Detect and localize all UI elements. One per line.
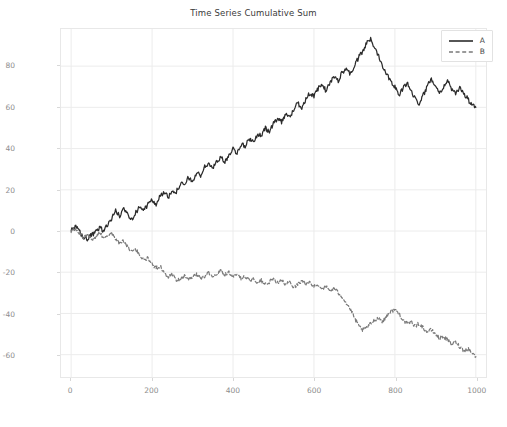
y-tick-mark [57,65,60,66]
legend-label-b: B [480,47,485,57]
figure-canvas: Time Series Cumulative Sum -60-40-200204… [0,0,507,427]
y-tick-mark [57,272,60,273]
legend-swatch-a [448,36,474,46]
x-tick-mark [152,378,153,381]
y-tick-label: 80 [0,61,15,70]
x-tick-label: 200 [122,386,182,395]
y-tick-mark [57,107,60,108]
x-tick-mark [396,378,397,381]
x-tick-mark [233,378,234,381]
legend-item-a[interactable]: A [448,35,485,46]
x-tick-label: 600 [284,386,344,395]
y-tick-label: -60 [0,351,15,360]
y-tick-label: 20 [0,185,15,194]
y-tick-label: 60 [0,102,15,111]
x-tick-label: 0 [40,386,100,395]
y-tick-mark [57,355,60,356]
y-tick-label: -40 [0,309,15,318]
x-tick-mark [314,378,315,381]
y-tick-mark [57,148,60,149]
x-tick-label: 1000 [447,386,507,395]
chart-legend[interactable]: A B [441,30,493,62]
y-tick-mark [57,231,60,232]
legend-item-b[interactable]: B [448,46,485,57]
x-tick-label: 800 [366,386,426,395]
legend-label-a: A [480,36,485,46]
y-tick-label: -20 [0,268,15,277]
y-tick-mark [57,314,60,315]
series-line-b [71,228,476,358]
y-tick-label: 40 [0,144,15,153]
y-tick-label: 0 [0,226,15,235]
chart-title: Time Series Cumulative Sum [0,8,507,18]
y-tick-mark [57,190,60,191]
legend-swatch-b [448,47,474,57]
plot-area [60,28,487,378]
x-tick-mark [477,378,478,381]
x-tick-mark [70,378,71,381]
series-line-a [71,37,476,240]
series-layer [61,29,486,377]
x-tick-label: 400 [203,386,263,395]
